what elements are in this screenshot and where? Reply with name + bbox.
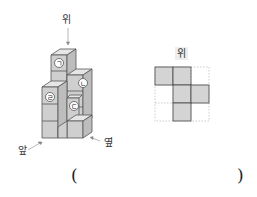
top-view-label: 위 [175,47,188,60]
svg-text:ㄴ: ㄴ [80,80,86,88]
svg-text:ㄷ: ㄷ [71,103,77,111]
answer-open-paren: ( [71,167,78,184]
answer-close-paren: ) [237,167,244,184]
answer-blank[interactable] [85,167,230,185]
view-label-side: 옆 [104,138,113,148]
view-label-front: 앞 [18,146,27,156]
svg-text:ㄱ: ㄱ [56,60,62,68]
view-label-top: 위 [62,15,71,25]
svg-text:ㄹ: ㄹ [47,94,53,102]
top-view-grid [155,67,209,121]
